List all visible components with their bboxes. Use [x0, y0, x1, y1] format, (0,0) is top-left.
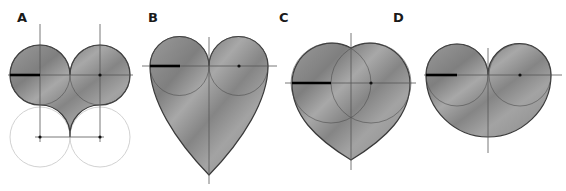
- figure-label-b: B: [148, 10, 158, 25]
- heart-construction-diagram: A B C D: [0, 0, 566, 191]
- figure-label-a: A: [17, 10, 27, 25]
- center-dot-d: [518, 73, 521, 76]
- center-dot-b: [237, 64, 240, 67]
- heart-shape-d: [426, 44, 551, 137]
- heart-shape-a: [10, 45, 130, 137]
- center-dot-c: [369, 81, 372, 84]
- lower-left-dot-a: [38, 135, 41, 138]
- figure-a: [8, 24, 133, 167]
- figure-b: [142, 37, 277, 185]
- figure-label-c: C: [279, 10, 289, 25]
- figure-c: [285, 33, 416, 170]
- lower-right-dot-a: [98, 135, 101, 138]
- figure-d: [424, 44, 562, 153]
- center-dot-a: [98, 73, 101, 76]
- figure-label-d: D: [393, 10, 404, 25]
